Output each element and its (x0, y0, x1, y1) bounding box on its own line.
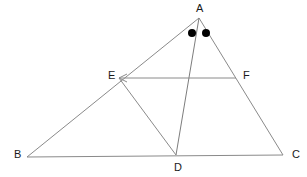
vertex-label-E: E (108, 69, 115, 81)
segment-ED (119, 78, 176, 155)
vertex-label-F: F (243, 69, 250, 81)
vertex-label-D: D (174, 161, 182, 173)
segment-BC (27, 155, 283, 157)
inner-segments (119, 18, 236, 155)
vertex-label-B: B (14, 148, 21, 160)
segment-AB (27, 18, 199, 157)
vertex-label-C: C (292, 148, 300, 160)
triangle-outline (27, 18, 283, 157)
segment-AC (199, 18, 283, 155)
angle-marks (188, 29, 210, 37)
vertex-label-A: A (196, 2, 204, 14)
geometry-diagram: A B C D E F (0, 0, 307, 177)
vertex-labels: A B C D E F (14, 2, 300, 173)
segment-AD (176, 18, 199, 155)
angle-dot-dac-icon (202, 29, 210, 37)
angle-dot-bad-icon (188, 29, 196, 37)
